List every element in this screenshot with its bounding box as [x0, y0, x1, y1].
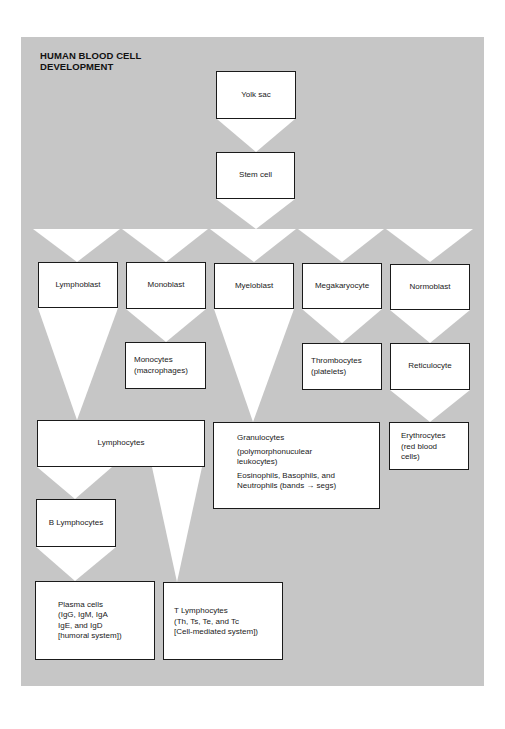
- node-sublabel: IgE, and IgD: [58, 621, 122, 632]
- flow-band-megakaryocyte: [298, 229, 384, 262]
- flow-yolk-to-stem: [217, 119, 295, 152]
- node-detail: Neutrophils (bands → segs): [237, 481, 336, 492]
- node-label: Monocytes: [134, 355, 188, 366]
- node-sublabel: (platelets): [311, 367, 362, 378]
- node-sublabel: leukocytes): [237, 457, 336, 468]
- node-label: Myeloblast: [235, 281, 273, 292]
- flow-stem-to-band: [216, 199, 295, 229]
- node-yolk-sac: Yolk sac: [216, 71, 296, 119]
- node-sublabel: (polymorphonuculear: [237, 447, 336, 458]
- node-megakaryocyte: Megakaryocyte: [302, 263, 382, 309]
- flow-lymphoblast-to-lymphocytes: [38, 308, 118, 420]
- flow-b-to-plasma: [36, 547, 116, 581]
- flow-band-lymphoblast: [33, 229, 120, 262]
- node-label: Erythrocytes: [401, 431, 445, 442]
- node-label: Stem cell: [239, 170, 272, 181]
- node-plasma-cells: Plasma cells (IgG, IgM, IgA IgE, and IgD…: [35, 581, 155, 660]
- node-sublabel: [humoral system]): [58, 631, 122, 642]
- title-line-1: HUMAN BLOOD CELL: [40, 50, 141, 61]
- node-sublabel: (red blood: [401, 442, 445, 453]
- node-erythrocytes: Erythrocytes (red blood cells): [389, 422, 469, 470]
- flow-reticulocyte-to-erythrocytes: [390, 390, 470, 422]
- node-granulocytes: Granulocytes (polymorphonuculear leukocy…: [213, 422, 380, 509]
- flow-band-normoblast: [386, 229, 473, 262]
- node-label: Thrombocytes: [311, 356, 362, 367]
- node-stem-cell: Stem cell: [216, 152, 295, 199]
- flow-band-myeloblast: [210, 229, 296, 262]
- node-normoblast: Normoblast: [390, 264, 470, 310]
- title-line-2: DEVELOPMENT: [40, 61, 141, 72]
- node-label: Plasma cells: [58, 600, 122, 611]
- flow-lymphocytes-to-b: [37, 467, 112, 499]
- flow-band-monoblast: [122, 229, 208, 262]
- node-lymphoblast: Lymphoblast: [38, 262, 118, 308]
- node-sublabel: cells): [401, 452, 445, 463]
- node-sublabel: (IgG, IgM, IgA: [58, 610, 122, 621]
- node-label: Yolk sac: [241, 90, 271, 101]
- node-t-lymphocytes: T Lymphocytes (Th, Ts, Te, and Tc [Cell-…: [163, 582, 283, 660]
- node-sublabel: (Th, Ts, Te, and Tc: [174, 617, 258, 628]
- node-label: Normoblast: [410, 282, 451, 293]
- flow-normoblast-to-reticulocyte: [390, 310, 470, 343]
- flow-monoblast-to-monocytes: [126, 309, 206, 342]
- flow-megakaryocyte-to-thrombocytes: [302, 309, 382, 343]
- node-detail: Eosinophils, Basophils, and: [237, 471, 336, 482]
- node-myeloblast: Myeloblast: [214, 263, 294, 309]
- node-thrombocytes: Thrombocytes (platelets): [302, 343, 382, 390]
- node-label: Monoblast: [148, 280, 185, 291]
- diagram-title: HUMAN BLOOD CELL DEVELOPMENT: [40, 50, 141, 72]
- node-label: Reticulocyte: [408, 361, 452, 372]
- node-label: T Lymphocytes: [174, 606, 258, 617]
- node-monoblast: Monoblast: [126, 262, 206, 309]
- flow-lymphocytes-to-t: [152, 467, 202, 582]
- node-reticulocyte: Reticulocyte: [390, 343, 470, 390]
- node-lymphocytes: Lymphocytes: [37, 420, 205, 467]
- node-label: Lymphoblast: [55, 280, 100, 291]
- node-label: B Lymphocytes: [49, 518, 103, 529]
- node-sublabel: (macrophages): [134, 366, 188, 377]
- node-label: Granulocytes: [237, 433, 336, 444]
- node-sublabel: [Cell-mediated system]): [174, 627, 258, 638]
- flow-myeloblast-to-granulocytes: [214, 309, 294, 422]
- node-monocytes: Monocytes (macrophages): [125, 342, 206, 389]
- node-label: Megakaryocyte: [315, 281, 369, 292]
- node-label: Lymphocytes: [98, 438, 145, 449]
- node-b-lymphocytes: B Lymphocytes: [36, 499, 116, 547]
